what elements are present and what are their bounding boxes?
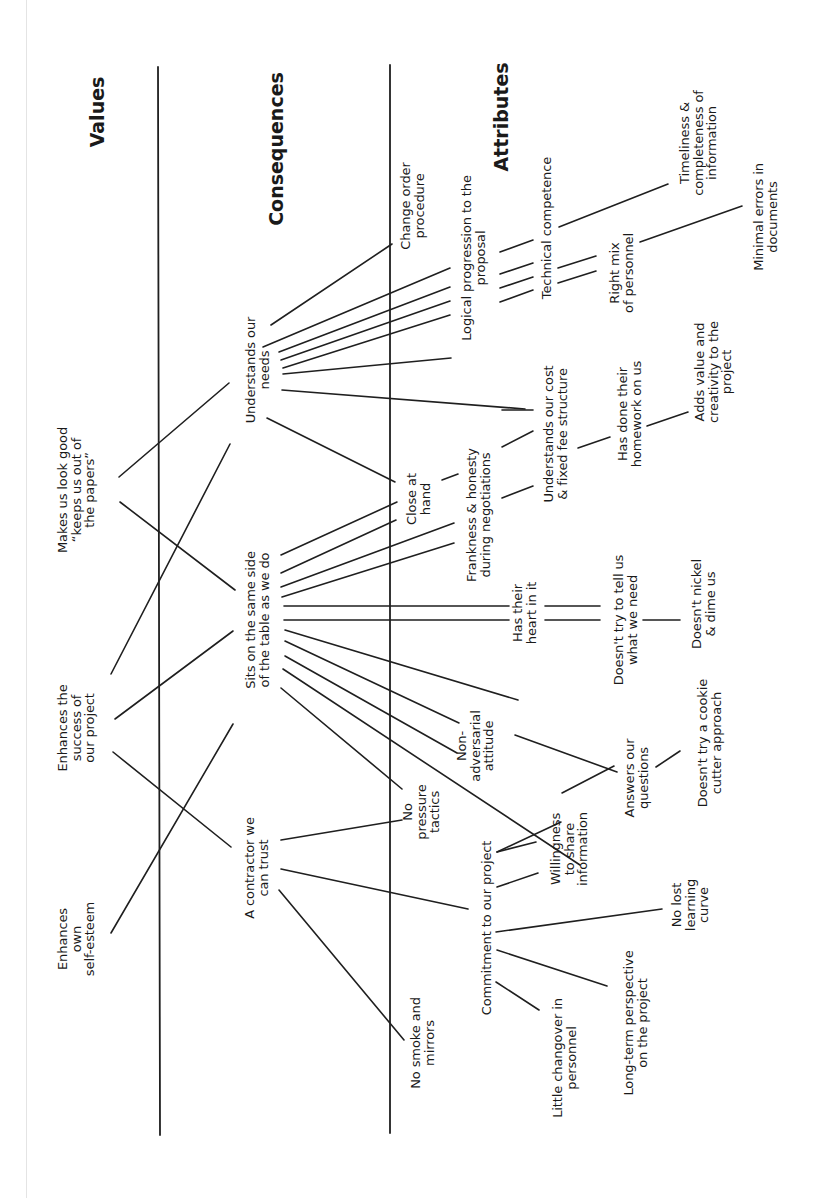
divider-values-consequences	[158, 67, 160, 1135]
